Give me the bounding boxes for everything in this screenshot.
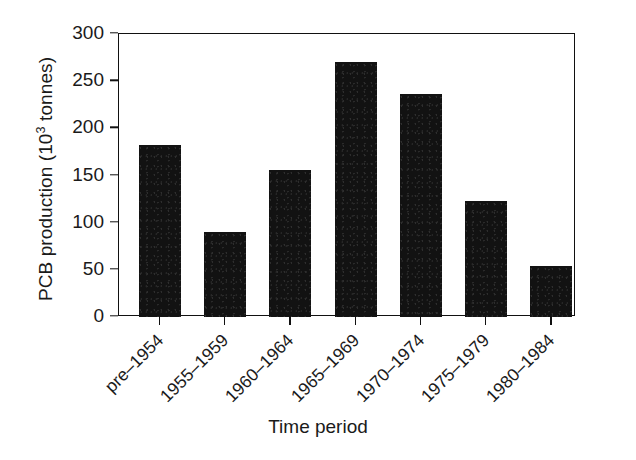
y-axis-tick-label: 300 [72,22,104,44]
y-axis-ticks: 050100150200250300 [0,0,118,460]
y-axis-tick-label: 50 [83,258,104,280]
y-axis-tick-label: 250 [72,69,104,91]
bar-series [119,34,576,317]
bar [465,201,507,317]
y-axis-tick-mark [110,32,118,33]
bar [269,170,311,317]
y-axis-tick-label: 100 [72,211,104,233]
y-axis-tick-label: 150 [72,164,104,186]
pcb-production-bar-chart: PCB production (103 tonnes) 050100150200… [0,0,636,460]
bar [204,232,246,317]
x-axis-tick-label: 1980–1984 [482,330,559,407]
y-axis-tick-mark [110,79,118,80]
y-axis-tick-mark [110,221,118,222]
y-axis-tick-label: 200 [72,116,104,138]
y-axis-tick-mark [110,174,118,175]
bar [139,145,181,317]
bar [530,266,572,317]
x-axis-tick-label: 1965–1969 [287,330,364,407]
x-axis-tick-label: 1970–1974 [352,330,429,407]
bar [335,62,377,317]
x-axis-tick-labels: pre–19541955–19591960–19641965–19691970–… [118,316,588,406]
y-axis-tick-mark [110,268,118,269]
x-axis-tick-label: 1975–1979 [417,330,494,407]
bar [400,94,442,317]
x-axis-tick-label: 1960–1964 [221,330,298,407]
x-axis-tick-label: 1955–1959 [156,330,233,407]
x-axis-title: Time period [0,416,636,438]
y-axis-tick-label: 0 [93,305,104,327]
y-axis-tick-mark [110,315,118,316]
y-axis-tick-mark [110,127,118,128]
plot-area [118,33,575,316]
